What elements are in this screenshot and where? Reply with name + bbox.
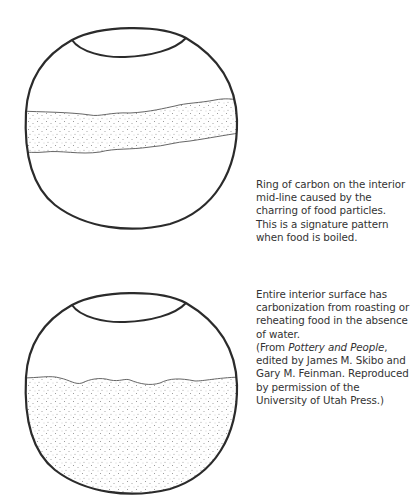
caption-midline-ring: Ring of carbon on the interior mid-line … — [256, 178, 405, 244]
source-line-4: by permission of the — [256, 381, 416, 394]
caption-line: reheating food in the absence — [256, 314, 416, 327]
caption-line: This is a signature pattern — [256, 218, 405, 231]
pot-full-interior-figure — [20, 293, 240, 500]
caption-line: charring of food particles. — [256, 204, 405, 217]
source-line-2: edited by James M. Skibo and — [256, 354, 416, 367]
carbon-ring-band — [20, 99, 240, 153]
source-line-1: (From Pottery and People, — [256, 341, 416, 354]
caption-line: carbonization from roasting or — [256, 301, 416, 314]
pottery-illustrations — [0, 0, 417, 501]
source-punct: , — [384, 341, 387, 353]
source-book-title: Pottery and People — [288, 341, 384, 353]
pot-midline-figure — [20, 28, 240, 229]
caption-line: of water. — [256, 328, 416, 341]
source-line-5: University of Utah Press.) — [256, 394, 416, 407]
pot-rim — [72, 38, 186, 57]
source-line-3: Gary M. Feinman. Reproduced — [256, 367, 416, 380]
caption-line: mid-line caused by the — [256, 191, 405, 204]
source-credit: (From Pottery and People, edited by Jame… — [256, 341, 416, 407]
caption-line: Ring of carbon on the interior — [256, 178, 405, 191]
caption-full-interior: Entire interior surface has carbonizatio… — [256, 288, 416, 341]
carbonized-interior — [20, 377, 240, 500]
pot-rim — [72, 303, 186, 322]
caption-line: when food is boiled. — [256, 231, 405, 244]
caption-line: Entire interior surface has — [256, 288, 416, 301]
source-prefix: (From — [256, 341, 288, 353]
